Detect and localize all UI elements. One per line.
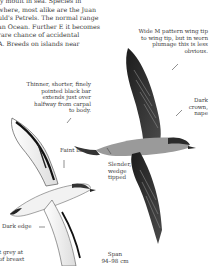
tail-label: Slender, wedge tipped xyxy=(108,161,131,181)
petrel-underside-illustration xyxy=(10,118,96,266)
underwing-bar-label: Thinner, shorter, finely pointed black b… xyxy=(0,81,91,114)
petrel-upperside-illustration xyxy=(74,48,196,244)
crown-label: Dark crown, nape xyxy=(189,97,208,117)
span-label: Span 94–98 cm xyxy=(100,251,130,264)
wing-pattern-label: Wide M pattern wing tip to wing tip, but… xyxy=(138,28,208,54)
faint-bar-label: Faint bar xyxy=(60,147,86,154)
dark-edge-label: Dark edge xyxy=(2,223,31,230)
breast-label: t grey at of breast xyxy=(0,249,24,262)
